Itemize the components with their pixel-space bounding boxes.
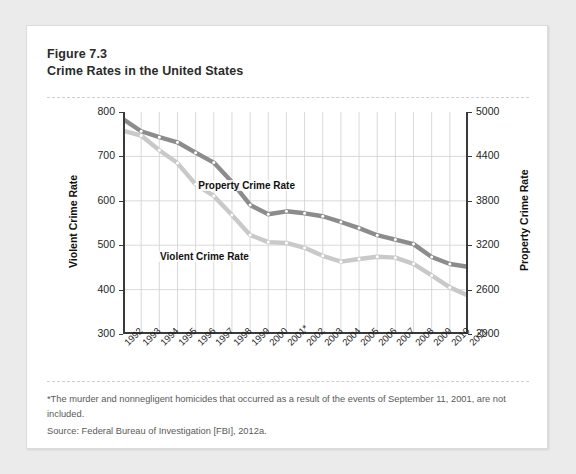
y-axis-right-title: Property Crime Rate (518, 169, 530, 271)
chart-area: 300400500600700800 200026003200380044005… (27, 104, 549, 374)
y-axis-right-tick-5000: 5000 (476, 105, 516, 117)
figure-footnote: *The murder and nonnegligent homicides t… (47, 392, 517, 421)
y-axis-left-tick-800: 800 (79, 105, 115, 117)
y-axis-right-tickmark (468, 201, 472, 202)
figure-header: Figure 7.3 Crime Rates in the United Sta… (47, 46, 517, 80)
y-axis-right-tickmark (468, 112, 472, 113)
series-label-violent: Violent Crime Rate (158, 251, 251, 262)
divider-top (47, 97, 529, 98)
y-axis-left-tick-500: 500 (79, 238, 115, 250)
figure-title: Crime Rates in the United States (47, 63, 517, 80)
series-label-property: Property Crime Rate (196, 180, 297, 191)
plot-area (123, 112, 468, 334)
y-axis-left-tick-700: 700 (79, 149, 115, 161)
y-axis-right-tick-2600: 2600 (476, 283, 516, 295)
y-axis-left-tick-300: 300 (79, 327, 115, 339)
divider-bottom (47, 381, 529, 382)
figure-page: Figure 7.3 Crime Rates in the United Sta… (0, 0, 576, 474)
y-axis-right-tickmark (468, 290, 472, 291)
y-axis-left-tickmark (119, 290, 123, 291)
y-axis-left-tick-400: 400 (79, 283, 115, 295)
y-axis-right-tick-3200: 3200 (476, 238, 516, 250)
y-axis-left-tickmark (119, 112, 123, 113)
y-axis-left-tickmark (119, 201, 123, 202)
y-axis-left-title: Violent Crime Rate (67, 175, 79, 268)
y-axis-left-tickmark (119, 245, 123, 246)
figure-card: Figure 7.3 Crime Rates in the United Sta… (26, 25, 548, 449)
y-axis-right-tick-4400: 4400 (476, 149, 516, 161)
y-axis-left-tickmark (119, 334, 123, 335)
figure-source: Source: Federal Bureau of Investigation … (47, 424, 517, 439)
plot-frame (123, 112, 468, 334)
y-axis-right-tick-3800: 3800 (476, 194, 516, 206)
y-axis-right-tickmark (468, 156, 472, 157)
y-axis-left-tickmark (119, 156, 123, 157)
y-axis-right-tickmark (468, 245, 472, 246)
figure-number: Figure 7.3 (47, 46, 517, 63)
y-axis-left-tick-600: 600 (79, 194, 115, 206)
